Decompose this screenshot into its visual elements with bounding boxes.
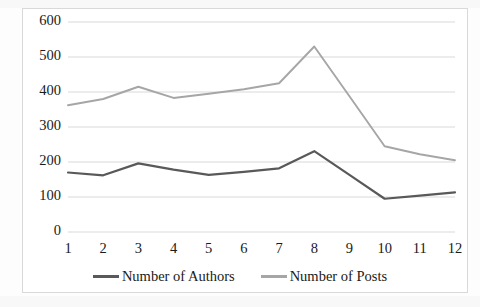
series-line	[68, 47, 455, 161]
x-tick-label: 7	[259, 240, 299, 257]
legend-label: Number of Authors	[122, 268, 235, 285]
series-line	[68, 151, 455, 199]
x-tick-label: 4	[154, 240, 194, 257]
x-tick-label: 6	[224, 240, 264, 257]
x-tick-label: 8	[294, 240, 334, 257]
chart-legend: Number of AuthorsNumber of Posts	[0, 268, 480, 285]
scan-noise	[0, 0, 480, 8]
chart-container: 0100200300400500600 123456789101112 Numb…	[0, 0, 480, 307]
scan-noise	[0, 296, 480, 307]
legend-label: Number of Posts	[290, 268, 387, 285]
x-tick-label: 1	[48, 240, 88, 257]
x-tick-label: 2	[83, 240, 123, 257]
y-tick-label: 300	[23, 117, 61, 134]
x-tick-label: 12	[435, 240, 475, 257]
legend-entry[interactable]: Number of Posts	[261, 268, 387, 285]
x-tick-label: 9	[329, 240, 369, 257]
legend-swatch-icon	[261, 275, 287, 278]
y-tick-label: 600	[23, 12, 61, 29]
x-tick-label: 11	[400, 240, 440, 257]
x-tick-label: 10	[365, 240, 405, 257]
x-tick-label: 5	[189, 240, 229, 257]
y-tick-label: 500	[23, 47, 61, 64]
chart-plot-frame: 0100200300400500600 123456789101112	[22, 8, 468, 293]
y-tick-label: 100	[23, 187, 61, 204]
series-lines-group	[68, 47, 455, 199]
y-tick-label: 400	[23, 82, 61, 99]
y-tick-label: 200	[23, 152, 61, 169]
legend-entry[interactable]: Number of Authors	[93, 268, 235, 285]
x-tick-label: 3	[118, 240, 158, 257]
y-tick-label: 0	[23, 222, 61, 239]
legend-swatch-icon	[93, 275, 119, 278]
gridlines-group	[68, 22, 455, 232]
